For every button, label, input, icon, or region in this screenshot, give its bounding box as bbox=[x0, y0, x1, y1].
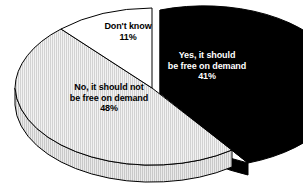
pie-chart-figure: Yes, it should be free on demand 41% No,… bbox=[0, 0, 303, 189]
pie-chart-graphic bbox=[0, 0, 303, 189]
